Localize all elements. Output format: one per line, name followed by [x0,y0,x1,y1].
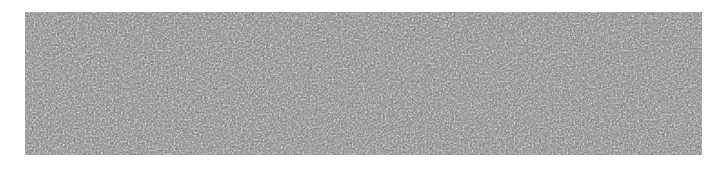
noise-texture [25,12,702,155]
noise-texture-graphic [25,12,702,155]
